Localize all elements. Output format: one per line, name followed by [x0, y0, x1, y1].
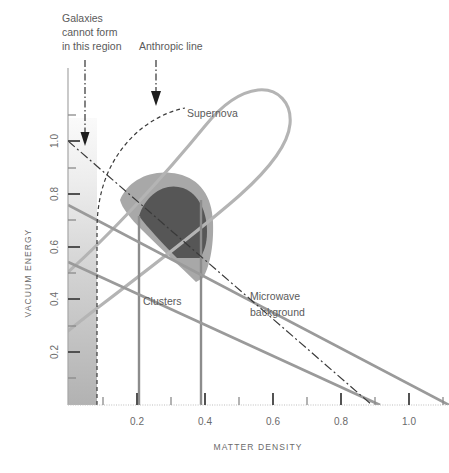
microwave-label-line2: background — [250, 306, 305, 318]
galaxies-cannot-form-region — [68, 118, 97, 405]
anthropic-annotation-arrowhead — [151, 91, 161, 106]
x-tick-label: 0.6 — [266, 416, 280, 427]
y-tick-label: 1.0 — [49, 134, 60, 148]
supernova-label: Supernova — [187, 107, 238, 119]
cmb-upper-bound — [68, 205, 449, 405]
cosmology-constraints-figure: 1.0 0.8 0.6 0.4 0.2 0.2 0.4 0.6 0.8 1.0 … — [0, 0, 449, 473]
galaxies-annotation-line2: cannot form — [62, 26, 118, 38]
y-tick-label: 0.2 — [49, 345, 60, 359]
galaxies-annotation-line1: Galaxies — [62, 12, 103, 24]
y-axis-title: VACUUM ENERGY — [23, 229, 33, 318]
x-tick-label: 0.8 — [334, 416, 348, 427]
chart-svg: 1.0 0.8 0.6 0.4 0.2 0.2 0.4 0.6 0.8 1.0 … — [0, 0, 449, 473]
anthropic-annotation-label: Anthropic line — [139, 40, 203, 52]
y-tick-label: 0.8 — [49, 187, 60, 201]
x-tick-label: 0.4 — [198, 416, 212, 427]
anthropic-annotation: Anthropic line — [139, 40, 203, 106]
x-axis-title: MATTER DENSITY — [214, 442, 303, 452]
microwave-label-line1: Microwave — [250, 290, 300, 302]
y-tick-labels: 1.0 0.8 0.6 0.4 0.2 — [49, 134, 60, 359]
galaxies-annotation-line3: in this region — [62, 40, 122, 52]
y-tick-label: 0.4 — [49, 292, 60, 306]
x-tick-labels: 0.2 0.4 0.6 0.8 1.0 — [130, 416, 416, 427]
clusters-label: Clusters — [143, 295, 182, 307]
y-tick-label: 0.6 — [49, 240, 60, 254]
anthropic-line — [68, 141, 372, 405]
x-tick-label: 0.2 — [130, 416, 144, 427]
cmb-lower-bound — [68, 262, 380, 405]
x-tick-label: 1.0 — [402, 416, 416, 427]
